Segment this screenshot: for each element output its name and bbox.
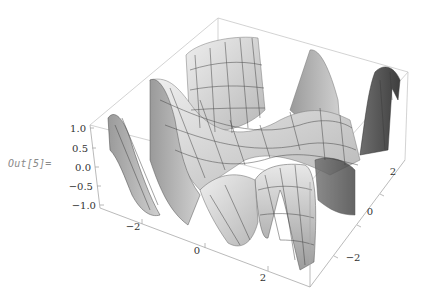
- z-tick-label: 1.0: [70, 123, 86, 134]
- z-tick-label: −1.0: [72, 200, 96, 211]
- y-tick-label: 0: [367, 206, 373, 217]
- y-tick-label: 2: [390, 166, 396, 177]
- z-axis-tick-labels: 1.0 0.5 0.0 −0.5 −1.0: [69, 123, 96, 211]
- x-tick-label: 0: [194, 245, 200, 256]
- z-tick-label: 0.0: [75, 162, 91, 173]
- x-tick-label: 2: [260, 272, 266, 283]
- surface-plot-3d[interactable]: 1.0 0.5 0.0 −0.5 −1.0 −2 0 2 −2 0 2: [0, 0, 429, 302]
- z-tick-label: −0.5: [69, 181, 93, 192]
- surface: [108, 37, 400, 270]
- y-tick-label: −2: [346, 252, 361, 263]
- z-tick-label: 0.5: [72, 143, 88, 154]
- x-tick-label: −2: [126, 221, 141, 232]
